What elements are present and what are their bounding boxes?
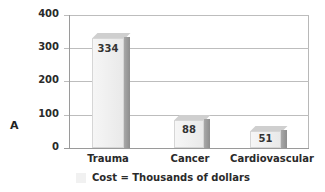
bar-value: 51 [250,133,281,144]
y-axis [69,15,70,149]
y-tick-0: 0 [19,141,59,152]
y-tick-300: 300 [19,41,59,52]
bar-side [124,37,130,148]
x-label-trauma: Trauma [82,153,134,164]
x-label-cancer: Cancer [162,153,218,164]
legend-swatch [76,173,86,183]
x-label-cardiovascular: Cardiovascular [226,153,318,164]
bar-side [281,130,287,148]
bar-cardiovascular: 51 [250,0,290,148]
y-tick-200: 200 [19,74,59,85]
bar-cancer: 88 [174,0,214,148]
bar-trauma: 334 [92,0,132,148]
bar-value: 88 [174,124,204,135]
bar-front [92,38,124,148]
y-tick-100: 100 [19,108,59,119]
y-tick-400: 400 [19,8,59,19]
bar-side [204,119,210,148]
y-axis-label: A [10,119,19,132]
legend: Cost = Thousands of dollars [76,172,250,183]
bar-value: 334 [92,43,124,54]
x-axis [64,148,309,149]
legend-label: Cost = Thousands of dollars [92,172,250,183]
